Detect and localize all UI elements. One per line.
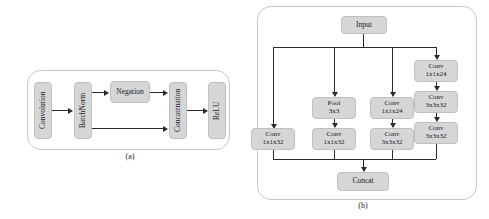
node-batchnorm[interactable]: BatchNorm	[74, 82, 92, 139]
node-input[interactable]: Input	[341, 16, 387, 34]
edge-b2-to-merge	[334, 150, 335, 159]
node-conv-b2-32-line2: 1x1x32	[324, 139, 345, 147]
node-conv-mid-24[interactable]: Conv 1x1x24	[370, 97, 414, 119]
node-pool-3x3[interactable]: Pool 3x3	[312, 97, 356, 119]
panel-a: Convolution BatchNorm Negation Concatena…	[0, 0, 245, 219]
edge-r3-to-merge	[436, 144, 437, 159]
node-concat[interactable]: Concat	[337, 172, 389, 191]
node-input-label: Input	[356, 21, 372, 29]
node-conv-r1-24-line2: 1x1x24	[426, 71, 447, 79]
node-conv-b1-32[interactable]: Conv 1x1x32	[251, 128, 295, 150]
panel-b-caption: (b)	[338, 201, 388, 210]
fanout-bus	[273, 47, 436, 48]
edge-branch2-drop	[334, 47, 335, 94]
node-conv-b3-32[interactable]: Conv 3x3x32	[370, 128, 414, 150]
arrowhead-conv-to-bn	[68, 108, 73, 114]
node-convolution-label: Convolution	[39, 92, 47, 130]
node-conv-mid-24-line2: 1x1x24	[382, 108, 403, 116]
edge-branch3-drop	[392, 47, 393, 94]
edge-conv-to-bn	[52, 110, 69, 111]
node-conv-b3-32-line2: 3x3x32	[382, 139, 403, 147]
node-conv-b1-32-line2: 1x1x32	[263, 139, 284, 147]
node-concatenation-label: Concatenation	[174, 89, 182, 132]
arrowhead-negation-to-concat	[163, 90, 168, 96]
merge-bus	[273, 159, 436, 160]
node-relu-label: ReLU	[213, 101, 221, 119]
edge-b1-to-merge	[273, 150, 274, 159]
node-conv-b2-32[interactable]: Conv 1x1x32	[312, 128, 356, 150]
node-negation[interactable]: Negation	[110, 81, 150, 103]
node-pool-3x3-line2: 3x3	[329, 108, 340, 116]
node-concatenation[interactable]: Concatenation	[169, 82, 187, 139]
node-conv-r1-24[interactable]: Conv 1x1x24	[414, 60, 458, 82]
node-conv-r2-32[interactable]: Conv 3x3x32	[414, 91, 458, 113]
edge-bn-to-concat	[92, 128, 164, 129]
edge-branch1-drop	[273, 47, 274, 126]
node-conv-r3-32-line2: 3x3x32	[426, 133, 447, 141]
node-negation-label: Negation	[116, 88, 144, 96]
arrowhead-bn-to-negation	[104, 90, 109, 96]
edge-negation-to-concat	[150, 92, 164, 93]
node-convolution[interactable]: Convolution	[34, 82, 52, 139]
figure-canvas: Convolution BatchNorm Negation Concatena…	[0, 0, 489, 219]
edge-concat-to-relu	[187, 110, 204, 111]
panel-b: Input Conv 1x1x24 Conv 3x3x32	[245, 0, 489, 219]
panel-a-caption: (a)	[105, 152, 155, 161]
node-batchnorm-label: BatchNorm	[79, 93, 87, 128]
edge-input-stub	[363, 34, 364, 47]
node-relu[interactable]: ReLU	[208, 82, 226, 139]
node-conv-r2-32-line2: 3x3x32	[426, 102, 447, 110]
node-conv-r3-32[interactable]: Conv 3x3x32	[414, 122, 458, 144]
arrowhead-bn-to-concat	[163, 126, 168, 132]
node-concat-label: Concat	[352, 177, 373, 185]
edge-b3-to-merge	[392, 150, 393, 159]
